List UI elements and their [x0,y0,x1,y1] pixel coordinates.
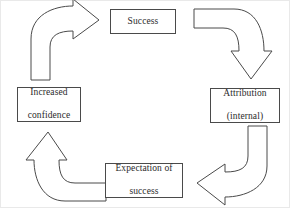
node-success-label: Success [125,16,162,28]
node-confidence-label: Increased confidence [22,87,77,122]
node-expectation-line2: success [112,186,175,198]
curved-arrow-right-down-icon [197,8,267,84]
node-expectation-label: Expectation of success [109,163,178,198]
diagram-canvas: Success Attribution (internal) Expectati… [0,0,291,209]
node-expectation: Expectation of success [105,163,183,198]
node-attribution: Attribution (internal) [210,88,280,123]
node-attribution-line1: Attribution [220,88,269,100]
node-increased-confidence: Increased confidence [17,87,81,122]
node-expectation-line1: Expectation of [112,163,175,175]
node-confidence-line1: Increased [25,87,74,99]
curved-arrow-up-right-icon [28,6,100,80]
curved-arrow-left-up-icon [26,130,100,202]
node-attribution-label: Attribution (internal) [217,88,272,123]
node-confidence-line2: confidence [25,110,74,122]
node-attribution-line2: (internal) [220,111,269,123]
curved-arrow-down-left-icon [196,128,268,202]
node-success: Success [110,9,176,34]
